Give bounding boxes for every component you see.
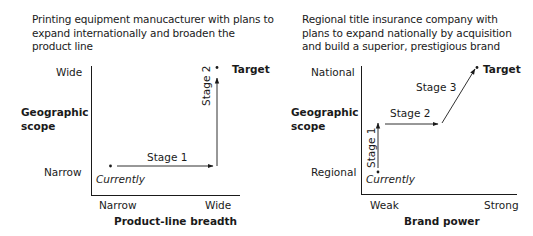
right-current-dot [377,171,380,174]
right-target-dot [476,66,479,69]
right-stage-3-arrow [442,69,475,123]
diagram-graphics [0,0,533,236]
left-current-dot [109,165,112,168]
left-target-dot [216,66,219,69]
